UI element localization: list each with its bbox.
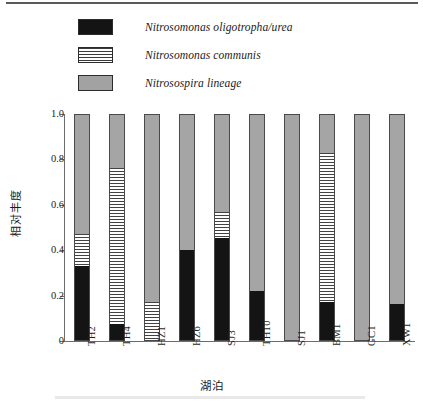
- y-axis-tick-label: 0: [30, 336, 64, 346]
- bar-segment: [215, 115, 229, 212]
- y-axis-tick-label-text: 0.4: [36, 245, 64, 255]
- bar-slot: [354, 114, 370, 341]
- y-axis-tick-label: 0.2: [30, 291, 64, 301]
- bar-segment: [285, 115, 299, 340]
- bar-segment: [320, 115, 334, 153]
- bar-segment: [110, 115, 124, 168]
- x-axis-tick-label: XW1: [401, 334, 412, 346]
- bar-slot: [319, 114, 335, 341]
- bottom-scan-smudge: [55, 396, 365, 399]
- stacked-bar[interactable]: [284, 114, 300, 341]
- bar-segment: [75, 115, 89, 234]
- bar-slot: [179, 114, 195, 341]
- y-axis-tick-label: 0.8: [30, 154, 64, 164]
- x-axis-tick-label: BM1: [331, 334, 342, 346]
- y-axis-title: 相对丰度: [7, 183, 23, 243]
- bar-segment: [215, 238, 229, 340]
- bar-slot: [249, 114, 265, 341]
- stacked-bar[interactable]: [109, 114, 125, 341]
- stacked-bar[interactable]: [319, 114, 335, 341]
- y-axis-tick-label-text: 1.0: [36, 109, 64, 119]
- bar-segment: [145, 115, 159, 302]
- figure-stacked-bar-chart: Nitrosomonas oligotropha/urea Nitrosomon…: [0, 0, 423, 405]
- x-axis-tick-label: TH4: [121, 334, 132, 346]
- y-axis-tick-label-text: 0.6: [36, 200, 64, 210]
- stacked-bar[interactable]: [249, 114, 265, 341]
- bar-slot: [109, 114, 125, 341]
- bar-segment: [110, 168, 124, 324]
- bar-segment: [320, 153, 334, 302]
- stacked-bar[interactable]: [74, 114, 90, 341]
- x-axis-tick-label: SJ1: [296, 334, 307, 346]
- y-axis-tick-label-text: 0.2: [36, 291, 64, 301]
- bar-segment: [390, 115, 404, 304]
- x-axis-line: [64, 341, 415, 342]
- y-axis-tick-label-text: 0.8: [36, 154, 64, 164]
- stacked-bar[interactable]: [144, 114, 160, 341]
- stacked-bar[interactable]: [179, 114, 195, 341]
- bar-slot: [144, 114, 160, 341]
- stacked-bar[interactable]: [389, 114, 405, 341]
- y-axis-tick-label: 1.0: [30, 109, 64, 119]
- x-axis-tick-label: SJ3: [226, 334, 237, 346]
- bars-container: [64, 114, 415, 341]
- bar-segment: [250, 115, 264, 291]
- bar-segment: [180, 115, 194, 250]
- x-axis-tick-label: HZ1: [156, 334, 167, 346]
- x-axis-tick-label: TH10: [261, 334, 272, 346]
- stacked-bar[interactable]: [214, 114, 230, 341]
- bar-slot: [284, 114, 300, 341]
- x-axis-tick-label: TH2: [86, 334, 97, 346]
- x-axis-title: 湖泊: [0, 377, 423, 393]
- bar-segment: [215, 212, 229, 238]
- y-axis-tick-label: 0.6: [30, 200, 64, 210]
- bar-slot: [214, 114, 230, 341]
- plot-area: 00.20.40.60.81.0 相对丰度 TH2TH4HZ1HZ6SJ3TH1…: [0, 0, 423, 405]
- y-axis-tick-label: 0.4: [30, 245, 64, 255]
- bar-slot: [389, 114, 405, 341]
- stacked-bar[interactable]: [354, 114, 370, 341]
- bar-slot: [74, 114, 90, 341]
- x-axis-tick-label: GC1: [366, 334, 377, 346]
- bar-segment: [75, 234, 89, 266]
- y-axis-tick-label-text: 0: [36, 336, 64, 346]
- x-axis-tick-label: HZ6: [191, 334, 202, 346]
- bar-segment: [355, 115, 369, 340]
